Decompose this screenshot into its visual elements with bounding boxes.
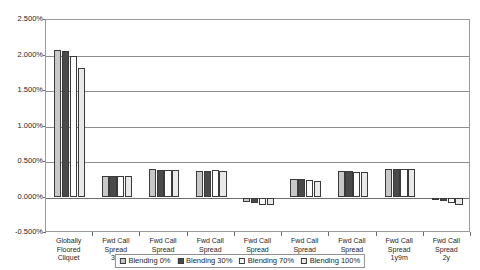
bar — [164, 170, 171, 197]
bar — [432, 198, 439, 200]
x-axis-label-line: Spread — [187, 246, 234, 255]
y-axis-tick-label: 1.000% — [1, 122, 43, 130]
x-axis-label-line: Fwd Call — [423, 237, 470, 246]
bar — [62, 51, 69, 197]
x-axis-label-line: Floored — [45, 246, 92, 255]
legend-item[interactable]: Blending 30% — [178, 256, 233, 265]
x-axis-tick-mark — [187, 232, 188, 236]
bar — [290, 179, 297, 197]
bar — [54, 50, 61, 198]
y-axis-tick-label: 0.500% — [1, 157, 43, 165]
x-axis-label-line: Globally — [45, 237, 92, 246]
y-axis-tick-label: 1.500% — [1, 86, 43, 94]
bar-chart: 2.500%2.000%1.500%1.000%0.500%0.000%-0.5… — [0, 11, 480, 248]
x-axis-label-line: Spread — [376, 246, 423, 255]
x-axis-label-line: 1y9m — [376, 254, 423, 263]
chart-legend: Blending 0%Blending 30%Blending 70%Blend… — [115, 254, 365, 268]
bar — [338, 171, 345, 197]
bar — [314, 181, 321, 197]
bar — [298, 179, 305, 197]
y-axis-tick-mark — [43, 232, 46, 233]
legend-item[interactable]: Blending 70% — [239, 256, 294, 265]
x-axis-tick-mark — [423, 232, 424, 236]
x-axis-category-label: Fwd CallSpread1y9m — [376, 237, 423, 263]
x-axis-label-line: Spread — [234, 246, 281, 255]
bar — [353, 172, 360, 198]
legend-item[interactable]: Blending 100% — [301, 256, 360, 265]
bar — [102, 176, 109, 197]
bar — [117, 176, 124, 197]
legend-label: Blending 30% — [186, 256, 232, 265]
bar — [440, 198, 447, 202]
legend-label: Blending 70% — [248, 256, 294, 265]
x-axis-label-line: Spread — [139, 246, 186, 255]
bar — [259, 198, 266, 205]
x-axis-label-line: Spread — [328, 246, 375, 255]
bar — [400, 169, 407, 197]
y-axis-tick-label: 2.000% — [1, 51, 43, 59]
x-axis-label-line: Spread — [423, 246, 470, 255]
y-axis-tick-label: -0.500% — [1, 228, 43, 236]
x-axis-label-line: Fwd Call — [328, 237, 375, 246]
legend-item[interactable]: Blending 0% — [120, 256, 171, 265]
x-axis-label-line: Cliquet — [45, 254, 92, 263]
bar — [125, 176, 132, 197]
x-axis-tick-mark — [376, 232, 377, 236]
y-axis: 2.500%2.000%1.500%1.000%0.500%0.000%-0.5… — [0, 19, 43, 232]
bar — [385, 169, 392, 197]
legend-label: Blending 100% — [310, 256, 360, 265]
y-axis-tick-label: 0.000% — [1, 193, 43, 201]
plot-area — [45, 19, 470, 232]
bar — [212, 170, 219, 197]
bar — [196, 171, 203, 198]
x-axis-tick-mark — [139, 232, 140, 236]
x-axis-category-label: Fwd CallSpread2y — [423, 237, 470, 263]
x-axis-label-line: 2y — [423, 254, 470, 263]
x-axis-label-line: Spread — [92, 246, 139, 255]
y-axis-tick-label: 2.500% — [1, 15, 43, 23]
bar — [157, 170, 164, 198]
legend-swatch-icon — [178, 258, 184, 264]
x-axis-category-label: GloballyFlooredCliquet — [45, 237, 92, 263]
bar — [267, 198, 274, 206]
legend-swatch-icon — [239, 258, 245, 264]
bar — [345, 171, 352, 197]
x-axis-label-line: Fwd Call — [376, 237, 423, 246]
x-axis-label-line: Fwd Call — [187, 237, 234, 246]
bar — [204, 171, 211, 198]
legend-swatch-icon — [120, 258, 126, 264]
bar — [149, 169, 156, 197]
bar — [408, 169, 415, 197]
x-axis-label-line: Fwd Call — [234, 237, 281, 246]
x-axis-label-line: Spread — [281, 246, 328, 255]
legend-swatch-icon — [301, 258, 307, 264]
x-axis-label-line: Fwd Call — [92, 237, 139, 246]
bar — [243, 198, 250, 203]
x-axis-label-line: Fwd Call — [139, 237, 186, 246]
legend-label: Blending 0% — [128, 256, 170, 265]
bar — [78, 68, 85, 197]
x-axis-label-line: Fwd Call — [281, 237, 328, 246]
bar — [455, 198, 462, 205]
bar — [70, 56, 77, 197]
bar-series-container — [46, 20, 469, 231]
bar — [219, 171, 226, 197]
bar — [172, 170, 179, 197]
x-axis-tick-mark — [92, 232, 93, 236]
bar — [109, 176, 116, 197]
bar — [448, 198, 455, 204]
bar — [361, 172, 368, 197]
x-axis-tick-mark — [470, 232, 471, 236]
bar — [306, 180, 313, 197]
bar — [251, 198, 258, 204]
x-axis-tick-mark — [281, 232, 282, 236]
x-axis-tick-mark — [234, 232, 235, 236]
bar — [393, 169, 400, 197]
chart-title-strip: Comparison of prices across blending lev… — [0, 0, 480, 11]
x-axis-tick-mark — [328, 232, 329, 236]
